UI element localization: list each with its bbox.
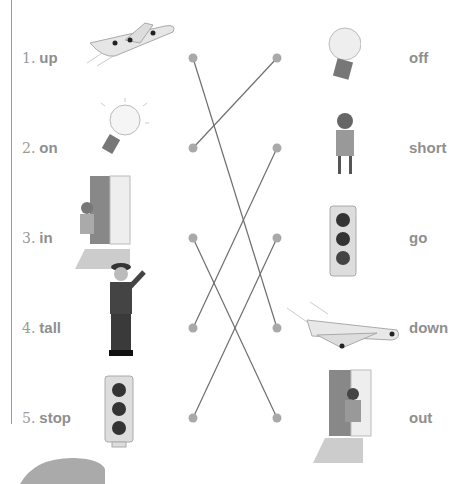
line-tall-short	[193, 148, 277, 328]
boy-entering-door-icon	[75, 174, 135, 270]
tall-man-icon	[100, 262, 150, 358]
dot-right-1[interactable]	[273, 54, 282, 63]
dot-left-4[interactable]	[189, 324, 198, 333]
airplane-up-icon	[85, 18, 180, 68]
short-girl-icon	[330, 106, 360, 176]
lightbulb-on-icon	[95, 98, 150, 160]
dot-right-5[interactable]	[273, 414, 282, 423]
girl-exiting-door-icon	[313, 368, 375, 464]
dot-left-5[interactable]	[189, 414, 198, 423]
dot-right-4[interactable]	[273, 324, 282, 333]
dot-left-2[interactable]	[189, 144, 198, 153]
matching-lines	[0, 0, 467, 484]
dot-left-3[interactable]	[189, 234, 198, 243]
dot-right-2[interactable]	[273, 144, 282, 153]
airplane-down-icon	[282, 300, 402, 356]
dot-left-1[interactable]	[189, 54, 198, 63]
dot-right-3[interactable]	[273, 234, 282, 243]
lightbulb-off-icon	[325, 24, 361, 86]
line-up-down	[193, 58, 277, 328]
character-head-icon	[15, 455, 105, 484]
line-on-off	[193, 58, 277, 148]
traffic-light-stop-icon	[97, 370, 141, 448]
traffic-light-go-icon	[327, 200, 359, 282]
